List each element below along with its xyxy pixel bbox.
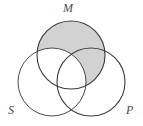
circle-label-m: M bbox=[63, 2, 73, 14]
shaded-region-m-minus-s bbox=[0, 0, 143, 126]
venn-diagram-canvas bbox=[0, 0, 143, 126]
circle-label-p: P bbox=[126, 104, 133, 116]
venn-diagram: M S P bbox=[0, 0, 143, 126]
circle-label-s: S bbox=[8, 104, 14, 116]
